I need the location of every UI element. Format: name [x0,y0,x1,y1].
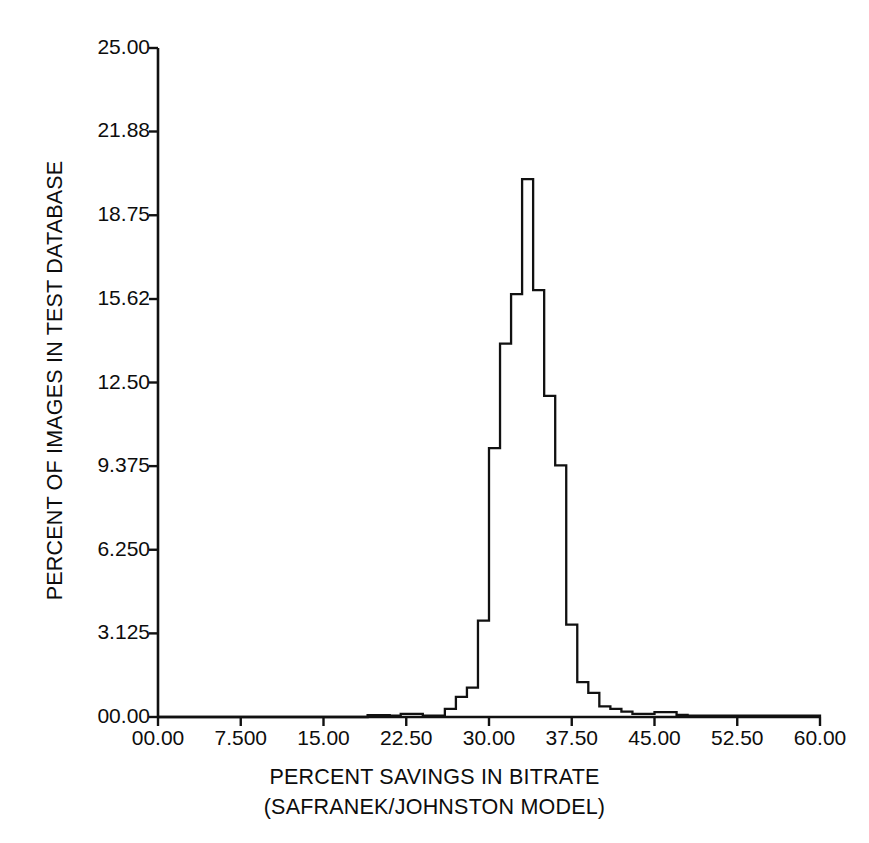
x-axis-tick-label: 22.50 [380,726,433,750]
chart-figure: PERCENT OF IMAGES IN TEST DATABASE 00.00… [0,0,869,843]
x-axis-tick-label: 37.50 [545,726,598,750]
x-axis-tick-label: 52.50 [711,726,764,750]
plot-area [0,0,869,843]
x-axis-tick-labels: 00.007.50015.0022.5030.0037.5045.0052.50… [0,726,869,760]
x-axis-title-line1: PERCENT SAVINGS IN BITRATE [0,762,869,792]
histogram-step-outline [158,179,820,717]
x-axis-tick-label: 00.00 [132,726,185,750]
x-axis-tick-label: 15.00 [297,726,350,750]
x-axis-tick-label: 30.00 [463,726,516,750]
x-axis-tick-label: 60.00 [794,726,847,750]
x-axis-title: PERCENT SAVINGS IN BITRATE (SAFRANEK/JOH… [0,762,869,822]
x-axis-tick-label: 7.500 [214,726,267,750]
x-axis-title-line2: (SAFRANEK/JOHNSTON MODEL) [0,792,869,822]
x-axis-tick-label: 45.00 [628,726,681,750]
